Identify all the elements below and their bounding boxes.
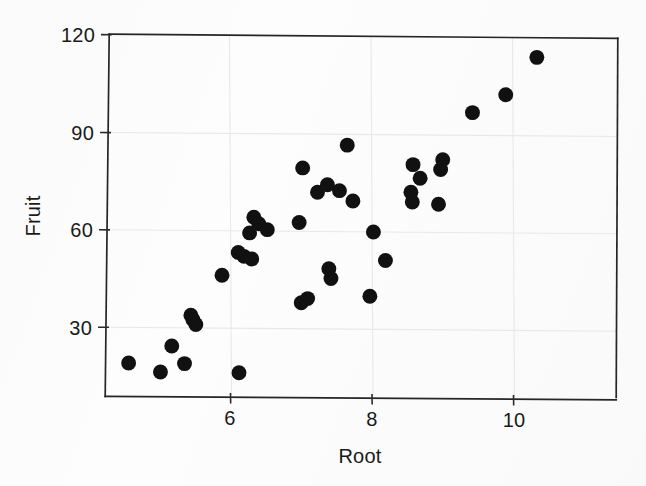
data-point (465, 105, 480, 120)
data-point (362, 289, 377, 304)
data-point (498, 87, 513, 102)
scatter-plot-figure: 120 90 60 30 6 8 10 Fruit Root (0, 0, 646, 486)
gridline-y-30 (106, 327, 616, 331)
data-point (324, 271, 339, 286)
x-tick-label-10: 10 (503, 409, 526, 431)
y-tick-label-30: 30 (69, 317, 92, 339)
data-point (153, 365, 168, 380)
frame-right (616, 38, 618, 397)
data-point (300, 291, 315, 306)
x-tick-label-6: 6 (224, 407, 235, 429)
data-point (433, 162, 448, 177)
data-point (340, 138, 355, 153)
data-point (292, 215, 307, 230)
data-point (366, 224, 381, 239)
gridline-x-8 (371, 37, 373, 396)
x-axis-title: Root (338, 445, 381, 467)
data-point (405, 195, 420, 210)
data-point (413, 171, 428, 186)
y-tick-label-120: 120 (61, 24, 95, 46)
data-point (164, 339, 179, 354)
data-point (529, 50, 544, 65)
gridline-y-90 (110, 133, 618, 137)
data-point (345, 194, 360, 209)
gridline-x-10 (513, 38, 515, 397)
gridline-x-6 (230, 36, 232, 395)
y-tick-labels: 120 90 60 30 (61, 24, 95, 339)
data-point (406, 157, 421, 172)
data-point (295, 160, 310, 175)
data-point (431, 197, 446, 212)
frame-left (105, 34, 109, 396)
plot-canvas: 120 90 60 30 6 8 10 Fruit Root (0, 0, 646, 486)
data-point (378, 253, 393, 268)
x-tick-labels: 6 8 10 (224, 407, 525, 431)
y-axis-ticks (98, 35, 112, 328)
y-tick-label-60: 60 (70, 219, 93, 241)
x-tick-label-8: 8 (366, 408, 377, 430)
axes-frame (105, 34, 618, 400)
data-point (232, 365, 247, 380)
data-point (188, 317, 203, 332)
data-point (332, 183, 347, 198)
data-point (244, 251, 259, 266)
y-tick-label-90: 90 (71, 122, 94, 144)
y-axis-title: Fruit (22, 195, 44, 236)
gridline-y-60 (108, 230, 617, 234)
data-point (215, 268, 230, 283)
data-point (177, 356, 192, 371)
data-point (260, 222, 275, 237)
frame-top (109, 34, 618, 38)
data-point (121, 356, 136, 371)
gridlines (106, 36, 618, 397)
frame-bottom (105, 396, 616, 400)
